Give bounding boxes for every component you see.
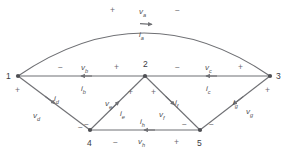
current-g-subscript: g xyxy=(235,103,238,109)
current-label-c: ic xyxy=(206,85,211,93)
sign-c-plus: + xyxy=(238,63,243,72)
current-d-subscript: d xyxy=(56,99,59,105)
sign-d-plus: + xyxy=(15,86,20,95)
node-label-1: 1 xyxy=(6,72,11,81)
sign-d-minus: − xyxy=(78,123,83,132)
voltage-label-h: vh xyxy=(138,138,145,146)
voltage-b-subscript: b xyxy=(85,68,88,74)
sign-h-plus: + xyxy=(174,138,179,147)
current-label-f: if xyxy=(175,99,178,107)
node-dot-2 xyxy=(143,74,147,78)
sign-g-minus: − xyxy=(209,120,214,129)
sign-b-minus: − xyxy=(58,63,63,72)
sign-b-plus: + xyxy=(114,63,119,72)
current-label-g: ig xyxy=(233,99,238,107)
current-label-h: ih xyxy=(140,118,145,126)
voltage-e-subscript: e xyxy=(109,104,112,110)
current-arrow-f xyxy=(166,96,175,105)
current-label-e: ie xyxy=(120,110,125,118)
sign-g-plus: + xyxy=(265,86,270,95)
node-dot-5 xyxy=(198,128,202,132)
current-f-subscript: f xyxy=(177,103,179,109)
node-dot-1 xyxy=(16,74,20,78)
current-c-subscript: c xyxy=(208,89,211,95)
voltage-label-d: vd xyxy=(33,112,40,120)
sign-h-minus: − xyxy=(113,138,118,147)
circuit-graph-diagram: 1 2 3 4 5 + − va ia − + vb ib − + vc ic … xyxy=(0,0,288,157)
voltage-c-subscript: c xyxy=(209,68,212,74)
voltage-f-subscript: f xyxy=(163,115,165,121)
voltage-h-subscript: h xyxy=(142,142,145,148)
current-label-b: ib xyxy=(81,85,86,93)
voltage-g-subscript: g xyxy=(250,112,253,118)
sign-f-plus: + xyxy=(151,88,156,97)
branch-a-arc xyxy=(18,33,270,76)
node-label-2: 2 xyxy=(143,60,148,69)
sign-a-plus: + xyxy=(110,6,115,15)
sign-e-plus: + xyxy=(128,88,133,97)
sign-e-minus: − xyxy=(84,120,89,129)
current-label-d: id xyxy=(54,95,59,103)
current-label-a: ia xyxy=(139,31,144,39)
voltage-label-g: vg xyxy=(246,108,253,116)
current-b-subscript: b xyxy=(83,89,86,95)
current-arrow-a xyxy=(140,24,152,25)
node-dot-3 xyxy=(268,74,272,78)
voltage-label-b: vb xyxy=(81,64,88,72)
node-label-5: 5 xyxy=(197,139,202,148)
node-label-4: 4 xyxy=(87,139,92,148)
node-label-3: 3 xyxy=(276,72,281,81)
voltage-d-subscript: d xyxy=(37,116,40,122)
circuit-svg xyxy=(0,0,288,157)
voltage-a-subscript: a xyxy=(143,12,146,18)
current-h-subscript: h xyxy=(142,122,145,128)
sign-a-minus: − xyxy=(175,6,180,15)
voltage-label-e: ve xyxy=(105,100,112,108)
sign-c-minus: − xyxy=(175,63,180,72)
sign-f-minus: − xyxy=(182,120,187,129)
voltage-label-c: vc xyxy=(205,64,212,72)
voltage-label-a: va xyxy=(139,8,146,16)
current-a-subscript: a xyxy=(141,35,144,41)
voltage-label-f: vf xyxy=(159,111,165,119)
current-e-subscript: e xyxy=(122,114,125,120)
